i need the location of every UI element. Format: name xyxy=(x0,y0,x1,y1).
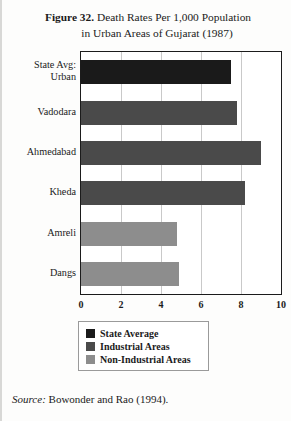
bar-chart: State Avg:UrbanVadodaraAhmedabadKhedaAmr… xyxy=(0,45,291,303)
chart-legend: State AverageIndustrial AreasNon-Industr… xyxy=(78,321,209,371)
bar-dangs xyxy=(81,262,179,286)
figure-caption: Figure 32. Death Rates Per 1,000 Populat… xyxy=(12,10,284,41)
category-label-kheda: Kheda xyxy=(0,186,76,198)
legend-swatch-icon xyxy=(86,329,95,338)
bar-row xyxy=(81,262,281,286)
figure-number: Figure 32. xyxy=(45,11,94,23)
legend-item: Non-Industrial Areas xyxy=(86,353,202,365)
category-label-state-avg-urban: State Avg:Urban xyxy=(0,59,76,83)
x-axis-tick-labels: 0246810 xyxy=(80,297,282,315)
legend-item: State Average xyxy=(86,327,202,339)
category-label-line: Vadodara xyxy=(0,106,76,118)
x-tick-8: 8 xyxy=(229,299,253,310)
legend-swatch-icon xyxy=(86,342,95,351)
bar-row xyxy=(81,60,281,84)
legend-swatch-icon xyxy=(86,355,95,364)
source-label: Source: xyxy=(12,393,46,405)
category-label-ahmedabad: Ahmedabad xyxy=(0,146,76,158)
legend-item: Industrial Areas xyxy=(86,340,202,352)
category-label-line: Dangs xyxy=(0,267,76,279)
source-text: Bowonder and Rao (1994). xyxy=(46,393,169,405)
bar-row xyxy=(81,181,281,205)
x-tick-6: 6 xyxy=(189,299,213,310)
category-label-line: Ahmedabad xyxy=(0,146,76,158)
category-label-dangs: Dangs xyxy=(0,267,76,279)
category-label-line: State Avg: xyxy=(0,59,76,71)
bar-amreli xyxy=(81,222,177,246)
bar-row xyxy=(81,222,281,246)
x-tick-0: 0 xyxy=(69,299,93,310)
x-tick-2: 2 xyxy=(109,299,133,310)
bar-row xyxy=(81,141,281,165)
category-label-line: Urban xyxy=(0,71,76,83)
bar-row xyxy=(81,101,281,125)
bars-container xyxy=(81,52,281,294)
bar-state-avg-urban xyxy=(81,60,231,84)
category-label-amreli: Amreli xyxy=(0,227,76,239)
bar-vadodara xyxy=(81,101,237,125)
plot-area xyxy=(80,51,282,295)
category-label-line: Kheda xyxy=(0,186,76,198)
bar-ahmedabad xyxy=(81,141,261,165)
x-tick-4: 4 xyxy=(149,299,173,310)
source-note: Source: Bowonder and Rao (1994). xyxy=(12,392,168,406)
caption-line-1: Death Rates Per 1,000 Population xyxy=(94,11,251,23)
caption-line-2: in Urban Areas of Gujarat (1987) xyxy=(12,26,284,42)
legend-label: Industrial Areas xyxy=(100,341,170,352)
category-label-vadodara: Vadodara xyxy=(0,106,76,118)
x-tick-10: 10 xyxy=(269,299,291,310)
legend-label: Non-Industrial Areas xyxy=(100,354,191,365)
figure-page: Figure 32. Death Rates Per 1,000 Populat… xyxy=(0,0,291,421)
category-label-line: Amreli xyxy=(0,227,76,239)
legend-label: State Average xyxy=(100,328,158,339)
bar-kheda xyxy=(81,181,245,205)
